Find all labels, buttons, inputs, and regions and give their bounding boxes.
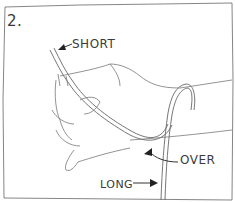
- over-arrow-icon: [144, 148, 178, 162]
- step-number: 2.: [7, 12, 22, 30]
- hand-knot-drawing: [0, 0, 235, 202]
- label-over: OVER: [180, 153, 215, 167]
- illustration-frame: 2. SHORT OVER LONG: [0, 0, 235, 202]
- short-arrow-icon: [58, 44, 72, 50]
- long-arrow-icon: [133, 179, 158, 187]
- label-long: LONG: [100, 178, 133, 191]
- label-short: SHORT: [72, 37, 115, 51]
